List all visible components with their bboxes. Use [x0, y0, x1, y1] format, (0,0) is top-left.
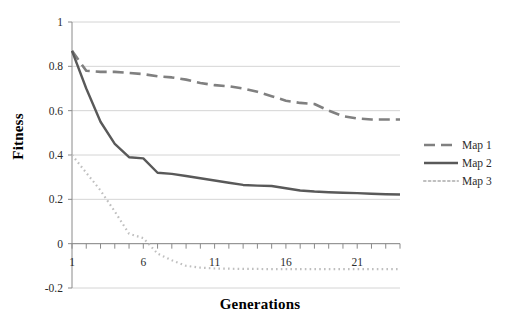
x-tick-label: 11: [209, 256, 220, 268]
x-tick-label: 6: [140, 256, 146, 268]
y-tick-label: 0.8: [49, 60, 64, 72]
y-axis-tick-labels: 10.80.60.40.20-0.2: [45, 16, 63, 294]
y-tick-label: -0.2: [45, 282, 63, 294]
legend-label-map-3: Map 3: [462, 175, 492, 188]
y-tick-label: 0.2: [49, 193, 64, 205]
x-axis-tick-labels: 16111621: [69, 256, 363, 268]
y-tick-label: 0.6: [49, 105, 64, 117]
y-tick-label: 1: [57, 16, 63, 28]
series-line-map-1: [72, 51, 400, 120]
series-line-map-3: [72, 155, 400, 269]
legend: Map 1Map 2Map 3: [424, 139, 492, 188]
y-tick-label: 0.4: [49, 149, 64, 161]
x-tick-label: 21: [351, 256, 363, 268]
x-tick-label: 1: [69, 256, 75, 268]
y-tick-label: 0: [57, 238, 63, 250]
fitness-vs-generations-chart: 10.80.60.40.20-0.2 16111621 Map 1Map 2Ma…: [0, 0, 506, 322]
data-series-group: [72, 51, 400, 269]
chart-canvas: 10.80.60.40.20-0.2 16111621 Map 1Map 2Ma…: [0, 0, 506, 322]
gridlines-group: [72, 22, 400, 288]
x-tick-label: 16: [280, 256, 292, 268]
x-axis-title: Generations: [160, 296, 360, 313]
y-axis-title: Fitness: [10, 97, 27, 177]
legend-label-map-1: Map 1: [462, 139, 492, 152]
legend-label-map-2: Map 2: [462, 157, 492, 170]
